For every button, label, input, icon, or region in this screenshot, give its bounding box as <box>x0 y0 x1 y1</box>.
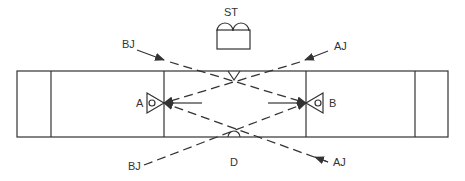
bj-bottom-label: BJ <box>128 160 141 172</box>
aj-bottom-ray: AJ <box>164 103 346 168</box>
sensor-b: B <box>268 93 336 113</box>
sensor-a: A <box>136 93 202 113</box>
diagram-canvas: ST A B BJ AJ BJ <box>0 0 465 181</box>
st-label: ST <box>224 6 238 18</box>
aj-top-label: AJ <box>334 40 347 52</box>
diagram-svg: ST A B BJ AJ BJ <box>0 0 465 181</box>
top-cross-mark <box>228 71 240 80</box>
bj-top-label: BJ <box>122 38 135 50</box>
aj-bottom-label: AJ <box>333 156 346 168</box>
label-a: A <box>136 97 144 109</box>
label-d: D <box>230 156 238 168</box>
st-symbol: ST <box>217 6 250 49</box>
label-b: B <box>329 97 336 109</box>
